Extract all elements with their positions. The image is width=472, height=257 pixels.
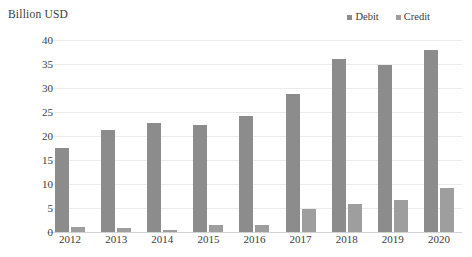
bar-debit[interactable]: [424, 50, 438, 232]
y-axis-tick-label: 25: [23, 107, 53, 118]
y-axis-tick-label: 30: [23, 83, 53, 94]
bar-pair: [416, 40, 462, 232]
bar-credit[interactable]: [255, 225, 269, 232]
bar-credit[interactable]: [117, 228, 131, 232]
y-axis-tick-label: 15: [23, 155, 53, 166]
bar-credit[interactable]: [302, 209, 316, 232]
bar-debit[interactable]: [286, 94, 300, 232]
x-axis-tick-label: 2016: [231, 234, 277, 245]
bar-debit[interactable]: [378, 65, 392, 232]
plot-area: [47, 40, 462, 232]
y-axis-tick-label: 35: [23, 59, 53, 70]
bar-credit[interactable]: [348, 204, 362, 232]
bar-debit[interactable]: [332, 59, 346, 232]
y-axis-tick-label: 40: [23, 35, 53, 46]
bar-group: [139, 40, 185, 232]
bar-debit[interactable]: [101, 130, 115, 232]
bar-pair: [231, 40, 277, 232]
bar-debit[interactable]: [147, 123, 161, 232]
bar-groups: [47, 40, 462, 232]
bar-pair: [278, 40, 324, 232]
bar-group: [93, 40, 139, 232]
legend-item-credit[interactable]: Credit: [396, 12, 430, 23]
y-axis-tick-label: 20: [23, 131, 53, 142]
bar-debit[interactable]: [193, 125, 207, 232]
bar-debit[interactable]: [239, 116, 253, 232]
legend-label-credit: Credit: [404, 12, 430, 23]
x-axis-tick-label: 2012: [47, 234, 93, 245]
x-axis-tick-label: 2013: [93, 234, 139, 245]
x-axis-tick-label: 2015: [185, 234, 231, 245]
bar-credit[interactable]: [209, 225, 223, 232]
bar-group: [416, 40, 462, 232]
x-axis-tick-label: 2020: [416, 234, 462, 245]
bar-credit[interactable]: [163, 230, 177, 232]
legend-label-debit: Debit: [355, 12, 378, 23]
bar-group: [370, 40, 416, 232]
legend-item-debit[interactable]: Debit: [347, 12, 378, 23]
x-axis-labels: 201220132014201520162017201820192020: [47, 234, 462, 245]
bar-group: [324, 40, 370, 232]
bar-group: [231, 40, 277, 232]
x-axis-tick-label: 2019: [370, 234, 416, 245]
bar-pair: [324, 40, 370, 232]
x-axis-tick-label: 2014: [139, 234, 185, 245]
legend-swatch-debit: [347, 15, 352, 20]
y-axis-tick-label: 5: [23, 203, 53, 214]
y-axis-title: Billion USD: [8, 8, 68, 20]
chart-legend: Debit Credit: [347, 12, 430, 23]
bar-pair: [370, 40, 416, 232]
bar-group: [47, 40, 93, 232]
bar-pair: [93, 40, 139, 232]
bar-credit[interactable]: [71, 227, 85, 232]
bar-pair: [185, 40, 231, 232]
x-axis-tick-label: 2017: [278, 234, 324, 245]
bar-chart: Billion USD Debit Credit 051015202530354…: [0, 0, 472, 257]
bar-pair: [139, 40, 185, 232]
bar-pair: [47, 40, 93, 232]
bar-credit[interactable]: [394, 200, 408, 232]
bar-credit[interactable]: [440, 188, 454, 232]
bar-group: [278, 40, 324, 232]
y-axis-tick-label: 10: [23, 179, 53, 190]
x-axis-tick-label: 2018: [324, 234, 370, 245]
legend-swatch-credit: [396, 15, 401, 20]
bar-debit[interactable]: [55, 148, 69, 232]
bar-group: [185, 40, 231, 232]
